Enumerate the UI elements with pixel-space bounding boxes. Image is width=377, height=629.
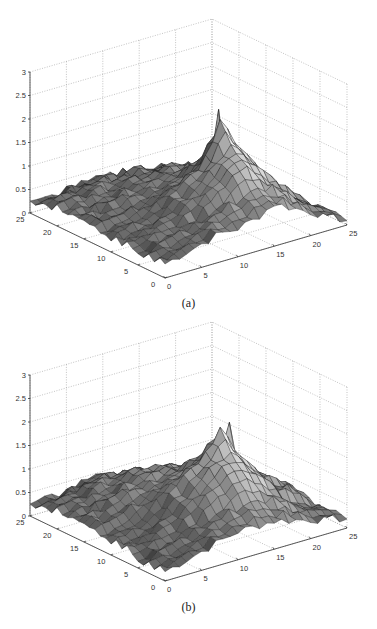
z-tick-label: 0.5 — [16, 488, 26, 497]
y-tick-label: 10 — [97, 557, 105, 566]
surface-plot-b: 0510152025051015202500.511.522.53 — [0, 0, 377, 629]
y-tick-label: 5 — [124, 570, 128, 579]
y-tick-label: 0 — [151, 583, 155, 592]
z-tick-label: 2 — [22, 418, 26, 427]
x-tick-label: 10 — [240, 564, 248, 573]
figure-b: 0510152025051015202500.511.522.53 (b) — [0, 0, 377, 629]
z-tick-label: 3 — [22, 371, 26, 380]
z-tick-label: 1 — [22, 465, 26, 474]
y-tick-label: 20 — [43, 531, 51, 540]
z-tick-label: 0 — [22, 512, 26, 521]
x-tick-label: 15 — [276, 553, 284, 562]
x-tick-label: 20 — [313, 543, 321, 552]
x-tick-label: 25 — [349, 532, 357, 541]
z-tick-label: 1.5 — [16, 441, 26, 450]
figure-b-caption: (b) — [0, 600, 377, 615]
x-tick-label: 5 — [203, 574, 207, 583]
y-tick-label: 15 — [70, 544, 78, 553]
x-tick-label: 0 — [167, 585, 171, 594]
z-tick-label: 2.5 — [16, 394, 26, 403]
